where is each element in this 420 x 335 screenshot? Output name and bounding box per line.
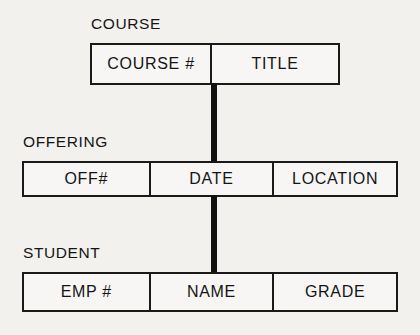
- field-student-grade[interactable]: GRADE: [274, 274, 396, 310]
- field-student-name[interactable]: NAME: [151, 274, 275, 310]
- entity-table-offering: OFF# DATE LOCATION: [22, 161, 398, 197]
- field-offering-number[interactable]: OFF#: [24, 163, 151, 195]
- field-offering-location[interactable]: LOCATION: [274, 163, 396, 195]
- field-course-title[interactable]: TITLE: [212, 45, 338, 83]
- entity-course: COURSE COURSE # TITLE: [90, 16, 340, 85]
- entity-label-course: COURSE: [91, 16, 161, 32]
- entity-table-student: EMP # NAME GRADE: [22, 272, 398, 312]
- field-offering-date[interactable]: DATE: [151, 163, 275, 195]
- field-student-emp-number[interactable]: EMP #: [24, 274, 151, 310]
- field-course-number[interactable]: COURSE #: [92, 45, 212, 83]
- entity-relationship-diagram: COURSE COURSE # TITLE OFFERING OFF# DATE…: [0, 0, 420, 335]
- entity-student: STUDENT EMP # NAME GRADE: [22, 245, 398, 312]
- entity-offering: OFFERING OFF# DATE LOCATION: [22, 134, 398, 197]
- entity-label-offering: OFFERING: [23, 134, 108, 150]
- entity-label-student: STUDENT: [23, 245, 100, 261]
- entity-table-course: COURSE # TITLE: [90, 43, 340, 85]
